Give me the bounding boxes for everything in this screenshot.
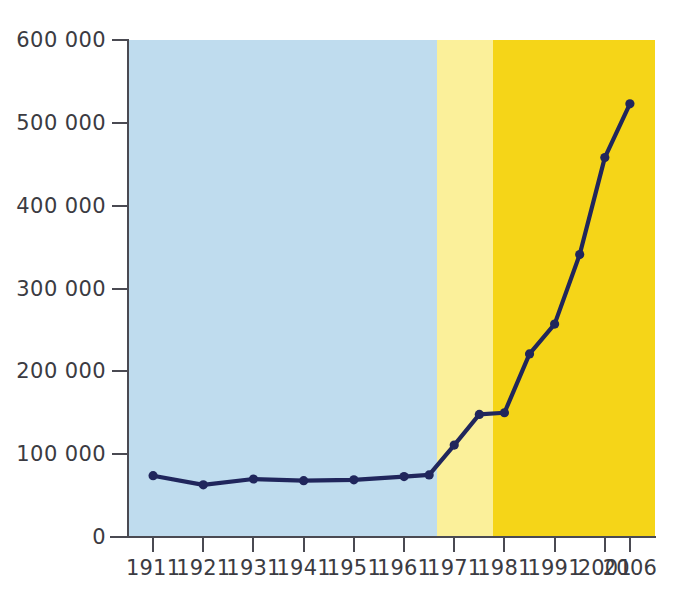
x-tick-mark [554,538,556,552]
y-tick-label: 600 000 [16,27,108,53]
y-tick-mark [112,453,128,455]
line-chart: 0100 000200 000300 000400 000500 000600 … [0,0,698,605]
y-tick-label: 400 000 [16,193,108,219]
x-tick-mark [303,538,305,552]
band-yellow [493,40,655,537]
y-tick-label: 0 [92,524,108,550]
x-tick-label: 2006 [603,556,657,580]
x-tick-mark [503,538,505,552]
y-tick-mark [112,205,128,207]
x-tick-label: 1951 [327,556,381,580]
x-tick-mark [152,538,154,552]
x-tick-mark [403,538,405,552]
x-tick-label: 1961 [377,556,431,580]
x-tick-label: 1971 [427,556,481,580]
x-tick-label: 1941 [277,556,331,580]
x-tick-mark [629,538,631,552]
y-tick-mark [112,288,128,290]
x-tick-label: 1911 [126,556,180,580]
y-tick-mark [112,370,128,372]
y-tick-mark [112,39,128,41]
x-axis-line [110,536,656,538]
x-tick-mark [604,538,606,552]
y-tick-label: 300 000 [16,276,108,302]
x-tick-label: 1931 [226,556,280,580]
y-tick-label: 100 000 [16,441,108,467]
x-tick-label: 1921 [176,556,230,580]
y-tick-mark [112,122,128,124]
x-tick-label: 1991 [527,556,581,580]
band-light-blue [128,40,437,537]
y-tick-mark [112,536,128,538]
x-tick-mark [252,538,254,552]
y-tick-label: 500 000 [16,110,108,136]
x-tick-mark [453,538,455,552]
x-tick-mark [202,538,204,552]
band-pale-yellow [437,40,494,537]
x-tick-mark [353,538,355,552]
x-tick-label: 1981 [477,556,531,580]
y-tick-label: 200 000 [16,358,108,384]
plot-area [128,40,655,537]
